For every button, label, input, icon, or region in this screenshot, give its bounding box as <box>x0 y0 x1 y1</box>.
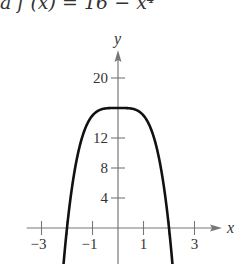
y-tick-label: 8 <box>101 160 109 176</box>
function-plot: xy−3−113481220 <box>0 0 246 264</box>
y-axis-label: y <box>112 30 122 48</box>
x-tick-label: −3 <box>31 236 47 252</box>
x-tick-label: −1 <box>82 236 98 252</box>
y-tick-label: 4 <box>101 190 109 206</box>
y-tick-label: 12 <box>93 130 108 146</box>
x-axis-label: x <box>226 219 234 236</box>
x-tick-label: 1 <box>140 236 148 252</box>
axes <box>27 50 222 264</box>
x-tick-label: 3 <box>191 236 199 252</box>
tick-labels: xy−3−113481220 <box>31 30 235 252</box>
y-tick-label: 20 <box>93 70 108 86</box>
